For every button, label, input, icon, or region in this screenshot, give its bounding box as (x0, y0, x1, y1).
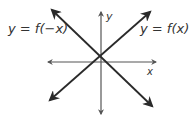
reflection-diagram: y = f(−x) y = f(x) y x (0, 0, 190, 122)
x-axis-label: x (146, 66, 153, 77)
y-axis-label: y (105, 10, 113, 23)
label-f-neg-x: y = f(−x) (7, 21, 68, 36)
label-f-x: y = f(x) (139, 21, 189, 36)
